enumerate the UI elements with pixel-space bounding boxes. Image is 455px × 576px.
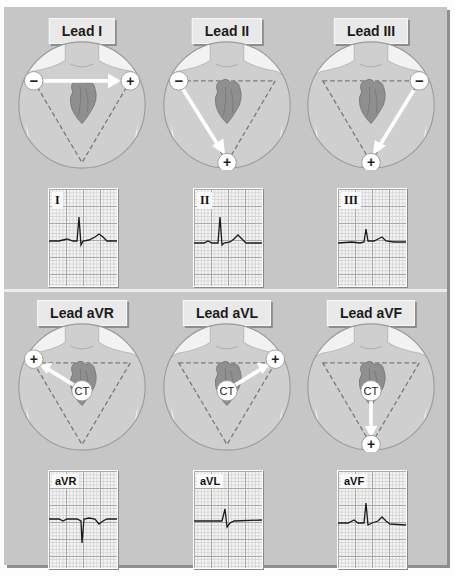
positive-electrode-icon: + [121, 72, 140, 91]
svg-text:−: − [29, 73, 38, 89]
torso-diagram: − + [157, 40, 297, 170]
lead-avf-panel: Lead aVF CT + aVF [297, 292, 445, 574]
svg-text:+: + [271, 351, 279, 367]
negative-electrode-icon: − [24, 72, 43, 91]
lead-avl-panel: Lead aVL CT + aVL [153, 292, 301, 574]
torso-diagram: CT + [12, 322, 152, 452]
svg-text:+: + [367, 436, 375, 452]
svg-text:+: + [30, 351, 38, 367]
lead-iii-panel: Lead III − + III [297, 10, 445, 292]
ecg-trace [194, 189, 262, 286]
ecg-strip: I [48, 188, 118, 287]
torso-diagram: − + [12, 40, 152, 170]
center-terminal-icon: CT [361, 381, 381, 401]
svg-text:+: + [126, 73, 134, 89]
ecg-trace [338, 471, 406, 568]
negative-electrode-icon: − [410, 72, 429, 91]
ecg-strip: aVF [337, 470, 407, 569]
torso-diagram: CT + [157, 322, 297, 452]
positive-electrode-icon: + [218, 153, 237, 170]
ecg-trace [49, 471, 117, 568]
svg-text:−: − [415, 73, 424, 89]
lead-i-panel: Lead I − + I [8, 10, 156, 292]
svg-text:CT: CT [364, 385, 379, 397]
ecg-strip: aVL [193, 470, 263, 569]
ecg-trace [338, 189, 406, 286]
torso-diagram: − + [301, 40, 441, 170]
center-terminal-icon: CT [72, 381, 92, 401]
torso-diagram: CT + [301, 322, 441, 452]
lead-avr-panel: Lead aVR CT + aVR [8, 292, 156, 574]
positive-electrode-icon: + [24, 350, 43, 369]
negative-electrode-icon: − [169, 72, 188, 91]
svg-text:−: − [174, 73, 183, 89]
ecg-strip: III [337, 188, 407, 287]
ecg-trace [49, 189, 117, 286]
ecg-trace [194, 471, 262, 568]
ecg-strip: aVR [48, 470, 118, 569]
ecg-strip: II [193, 188, 263, 287]
svg-text:CT: CT [75, 385, 90, 397]
positive-electrode-icon: + [362, 153, 381, 170]
svg-text:+: + [367, 154, 375, 170]
positive-electrode-icon: + [362, 435, 381, 452]
positive-electrode-icon: + [266, 350, 285, 369]
center-terminal-icon: CT [217, 381, 237, 401]
svg-text:+: + [223, 154, 231, 170]
svg-text:CT: CT [220, 385, 235, 397]
lead-ii-panel: Lead II − + II [153, 10, 301, 292]
